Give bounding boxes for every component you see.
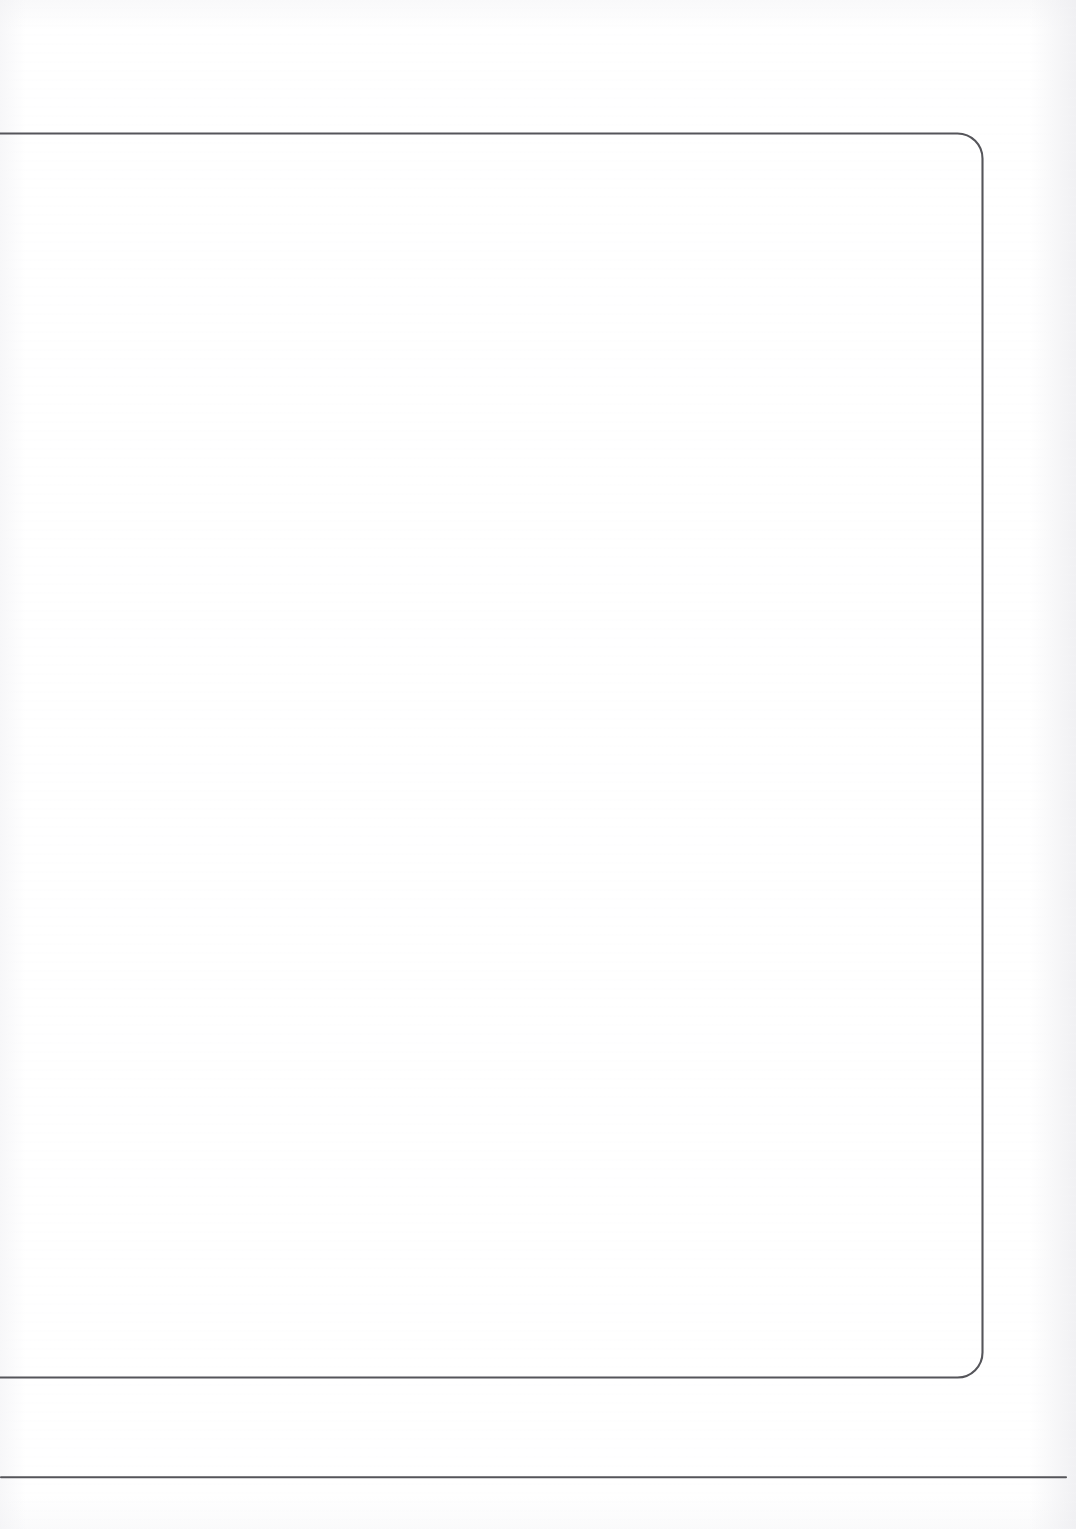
bottom-margin (0, 1479, 1076, 1529)
right-margin (984, 134, 1076, 1377)
scanned-page (0, 0, 1076, 1529)
page-content-area (0, 134, 983, 1377)
footer-band (0, 1379, 1076, 1477)
